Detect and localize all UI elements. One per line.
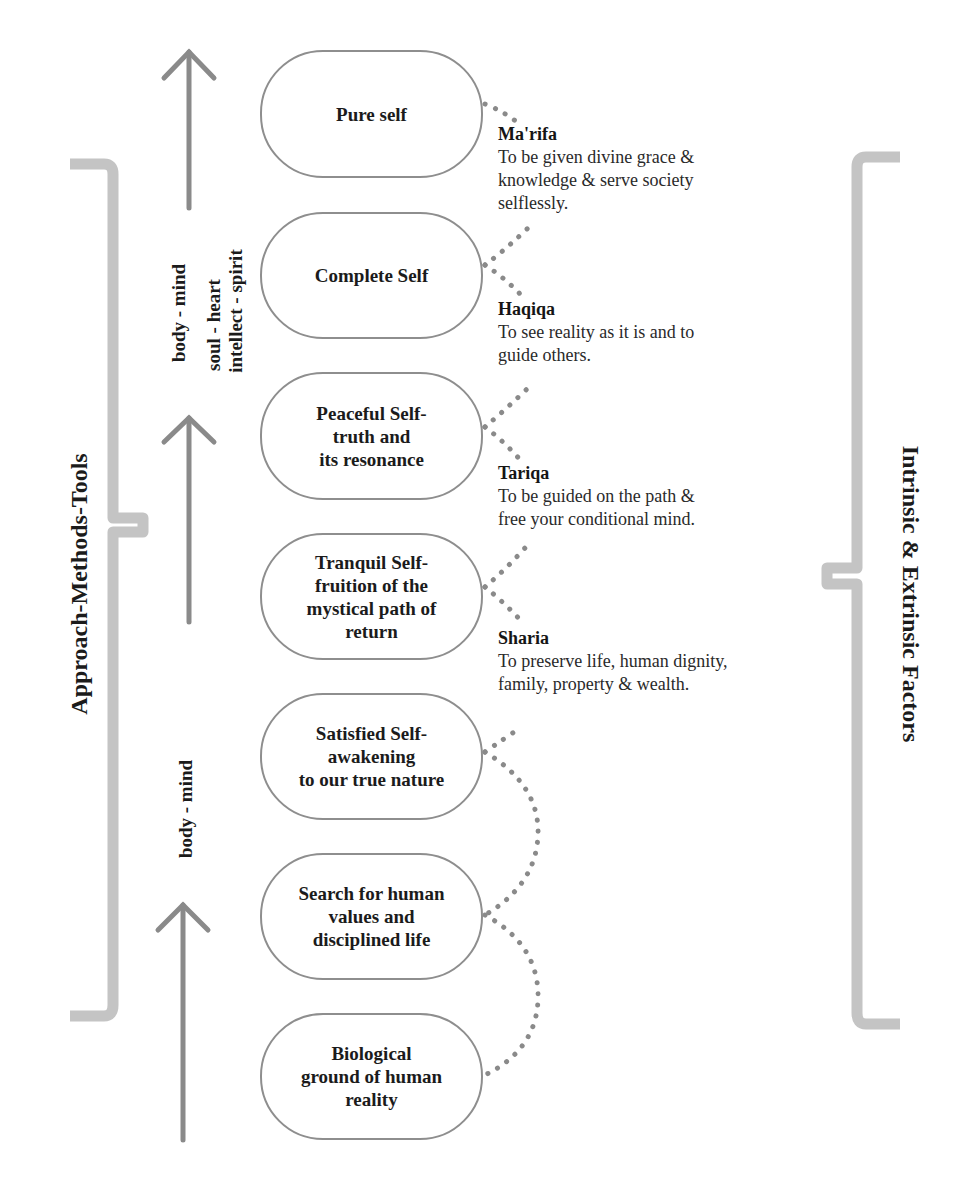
axis-label-body-mind-lower: body - mind [175, 739, 197, 879]
left-bracket-label: Approach-Methods-Tools [64, 384, 94, 784]
stage-label: Satisfied Self- awakening to our true na… [299, 722, 444, 791]
level-text: To be guided on the path & free your con… [498, 485, 878, 531]
stage-pure-self: Pure self [260, 50, 483, 178]
level-text: To preserve life, human dignity, family,… [498, 650, 878, 696]
level-title: Tariqa [498, 462, 878, 485]
axis-label-body-mind-upper: body - mind [168, 223, 190, 403]
stage-label: Peaceful Self- truth and its resonance [316, 402, 426, 471]
stage-tranquil-self: Tranquil Self- fruition of the mystical … [260, 533, 483, 660]
arrow-up-icon [164, 52, 214, 208]
arrow-up-icon [164, 418, 214, 622]
stage-label: Tranquil Self- fruition of the mystical … [307, 551, 437, 643]
right-bracket-label: Intrinsic & Extrinsic Factors [896, 384, 926, 804]
stage-label: Pure self [336, 103, 407, 126]
stage-search-human-values: Search for human values and disciplined … [260, 853, 483, 980]
stage-label: Biological ground of human reality [301, 1042, 442, 1111]
level-sharia: Sharia To preserve life, human dignity, … [498, 627, 878, 696]
stage-peaceful-self: Peaceful Self- truth and its resonance [260, 372, 483, 500]
axis-label-intellect-spirit: intellect - spirit [225, 211, 247, 411]
level-text: To be given divine grace & knowledge & s… [498, 146, 878, 215]
level-marifa: Ma'rifa To be given divine grace & knowl… [498, 123, 878, 215]
stage-label: Complete Self [315, 264, 428, 287]
level-title: Sharia [498, 627, 878, 650]
right-bracket [827, 157, 900, 1024]
arrow-up-icon [158, 905, 208, 1140]
stage-satisfied-self: Satisfied Self- awakening to our true na… [260, 693, 483, 820]
dotted-connectors [485, 104, 538, 1075]
stage-biological-ground: Biological ground of human reality [260, 1013, 483, 1140]
level-text: To see reality as it is and to guide oth… [498, 321, 878, 367]
level-tariqa: Tariqa To be guided on the path & free y… [498, 462, 878, 531]
level-title: Ma'rifa [498, 123, 878, 146]
level-title: Haqiqa [498, 298, 878, 321]
stage-label: Search for human values and disciplined … [298, 882, 444, 951]
stage-complete-self: Complete Self [260, 212, 483, 339]
axis-label-soul-heart: soul - heart [203, 235, 225, 415]
level-haqiqa: Haqiqa To see reality as it is and to gu… [498, 298, 878, 367]
